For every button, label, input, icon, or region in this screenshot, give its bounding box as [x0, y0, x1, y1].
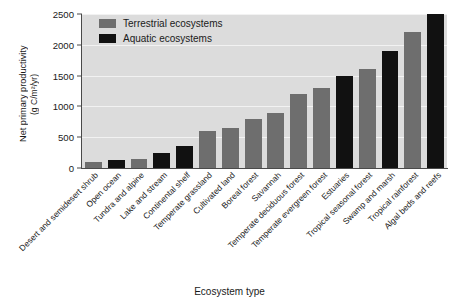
- bar: [313, 88, 330, 168]
- bar: [108, 160, 125, 168]
- bar-slot: [356, 14, 379, 168]
- y-axis-line: [81, 14, 82, 169]
- legend-item-aquatic: Aquatic ecosystems: [99, 32, 222, 45]
- chart-legend: Terrestrial ecosystems Aquatic ecosystem…: [99, 17, 222, 47]
- bar: [153, 153, 170, 168]
- bar-slot: [401, 14, 424, 168]
- bar-slot: [310, 14, 333, 168]
- bar-slot: [424, 14, 447, 168]
- x-axis-title: Ecosystem type: [0, 286, 459, 297]
- bar-slot: [242, 14, 265, 168]
- bar: [199, 131, 216, 168]
- y-tick-label: 1000: [53, 101, 74, 112]
- bar: [245, 119, 262, 168]
- bar: [336, 76, 353, 168]
- y-axis-title: Net primary productivity (g C/m²/yr): [2, 18, 36, 170]
- y-tick-label: 2500: [53, 9, 74, 20]
- legend-swatch-aquatic: [99, 34, 116, 43]
- legend-swatch-terrestrial: [99, 19, 116, 28]
- legend-item-terrestrial: Terrestrial ecosystems: [99, 17, 222, 30]
- bar: [267, 113, 284, 168]
- x-axis-line: [81, 168, 448, 169]
- legend-label-terrestrial: Terrestrial ecosystems: [123, 18, 222, 29]
- y-tick-label: 2000: [53, 39, 74, 50]
- y-tick-label: 500: [58, 132, 74, 143]
- bar-slot: [379, 14, 402, 168]
- bar-slot: [287, 14, 310, 168]
- bar: [176, 146, 193, 168]
- y-tick-label: 0: [69, 163, 74, 174]
- npp-bar-chart-figure: Net primary productivity (g C/m²/yr) 050…: [0, 0, 459, 305]
- y-axis-ticks: 05001000150020002500: [36, 0, 82, 305]
- bar: [290, 94, 307, 168]
- bar: [427, 14, 444, 168]
- bar: [404, 32, 421, 168]
- bar: [382, 51, 399, 168]
- legend-label-aquatic: Aquatic ecosystems: [123, 33, 212, 44]
- y-tick-label: 1500: [53, 70, 74, 81]
- bar-slot: [265, 14, 288, 168]
- bar: [359, 69, 376, 168]
- bar-slot: [333, 14, 356, 168]
- bar: [131, 159, 148, 168]
- x-axis-tick-labels: Desert and semidesert shrubOpen oceanTun…: [82, 170, 447, 290]
- bar: [222, 128, 239, 168]
